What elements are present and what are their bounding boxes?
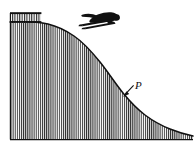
point-p-label: P bbox=[134, 79, 142, 91]
platform-top-edge bbox=[10, 12, 41, 14]
p-leader-arrow bbox=[123, 85, 134, 96]
ski-jumper-silhouette bbox=[77, 10, 121, 30]
ski-jump-figure: P bbox=[0, 0, 195, 152]
hatched-hill-body bbox=[9, 15, 195, 141]
ski-tip-lower bbox=[81, 27, 85, 30]
ski-tip-upper bbox=[78, 24, 82, 27]
figure-canvas: P bbox=[0, 0, 195, 152]
